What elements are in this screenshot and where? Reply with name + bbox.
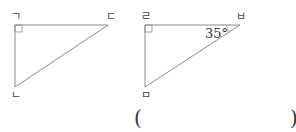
vertex-label-nieun: ㄴ (11, 90, 21, 101)
vertex-label-bieup: ㅂ (236, 11, 246, 22)
right-angle-mark (145, 25, 152, 32)
right-angle-mark (15, 25, 22, 32)
triangle-1 (15, 25, 108, 87)
vertex-label-mieum: ㅁ (141, 90, 151, 101)
vertex-label-rieul: ㄹ (141, 11, 151, 22)
answer-open-paren: ( (134, 108, 142, 128)
angle-label: 35° (205, 27, 228, 40)
vertex-label-digeut: ㄷ (106, 11, 116, 22)
vertex-label-giyeok: ㄱ (11, 11, 21, 22)
answer-close-paren: ) (290, 108, 296, 128)
